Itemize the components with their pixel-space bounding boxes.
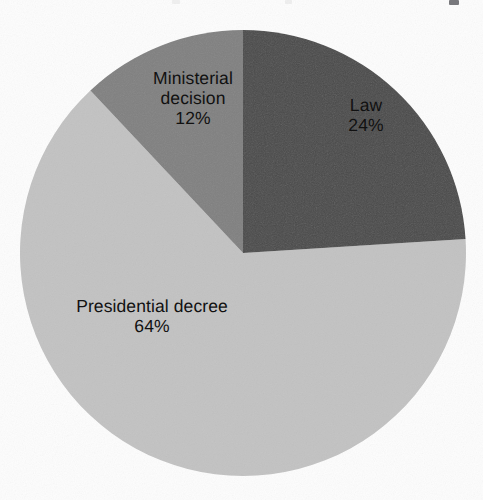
pie-label-law: Law 24% <box>296 95 436 135</box>
pie-chart: Law 24% Presidential decree 64% Minister… <box>0 0 483 500</box>
pie-label-presidential-decree: Presidential decree 64% <box>42 296 262 336</box>
pie-label-law-percent: 24% <box>296 115 436 135</box>
cropped-caption-artifact <box>449 0 459 5</box>
pie-label-presidential-decree-percent: 64% <box>42 316 262 336</box>
pie-label-ministerial-decision-line2: decision <box>118 88 268 108</box>
cropped-caption-artifact <box>172 0 180 4</box>
pie-label-presidential-decree-name: Presidential decree <box>42 296 262 316</box>
cropped-caption-artifact <box>285 0 292 4</box>
pie-label-ministerial-decision: Ministerial decision 12% <box>118 68 268 128</box>
pie-label-ministerial-decision-percent: 12% <box>118 108 268 128</box>
pie-label-ministerial-decision-line1: Ministerial <box>118 68 268 88</box>
pie-label-law-name: Law <box>296 95 436 115</box>
pie-slice-law <box>243 30 466 253</box>
